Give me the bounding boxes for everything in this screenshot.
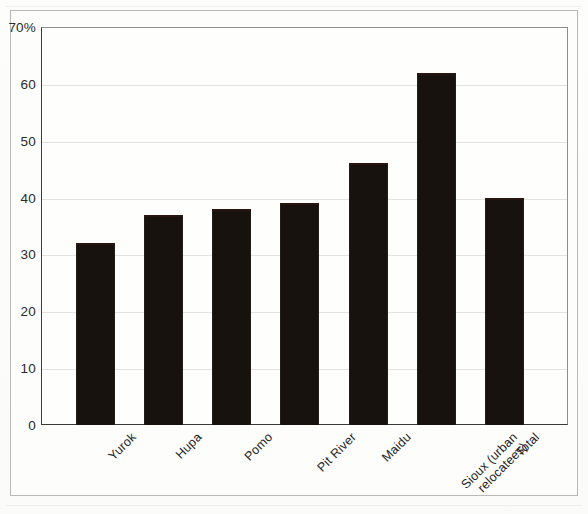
bar-maidu[interactable] — [349, 163, 388, 425]
bar-sioux-urban-relocatees[interactable] — [417, 73, 456, 426]
bar-series — [41, 27, 568, 425]
bar-pomo[interactable] — [212, 209, 251, 425]
bar-pit-river[interactable] — [280, 203, 319, 425]
ytick-label-10: 10 — [0, 361, 36, 376]
ytick-label-70: 70% — [0, 20, 36, 35]
bar-hupa[interactable] — [144, 215, 183, 425]
bar-yurok[interactable] — [76, 243, 115, 425]
ytick-label-30: 30 — [0, 247, 36, 262]
ytick-label-60: 60 — [0, 77, 36, 92]
bar-total[interactable] — [485, 198, 524, 425]
xtick-label-yurok: Yurok — [106, 430, 139, 463]
xtick-label-pit-river: Pit River — [314, 430, 359, 475]
ytick-label-40: 40 — [0, 191, 36, 206]
ytick-label-0: 0 — [0, 418, 36, 433]
xtick-label-maidu: Maidu — [379, 430, 414, 465]
xtick-label-hupa: Hupa — [173, 430, 205, 462]
ytick-label-20: 20 — [0, 304, 36, 319]
ytick-label-50: 50 — [0, 134, 36, 149]
xtick-label-sioux-urban-relocatees: Sioux (urban relocatees) — [458, 430, 530, 502]
xtick-label-pomo: Pomo — [242, 430, 276, 464]
bar-chart-figure: 70% 60 50 40 30 20 10 0 Yurok Hupa Pomo … — [0, 0, 588, 514]
